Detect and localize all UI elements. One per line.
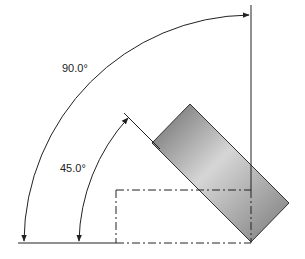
extension-line-45: [124, 113, 160, 149]
rotated-part: [152, 104, 289, 242]
angle-diagram: 90.0° 45.0°: [0, 0, 305, 259]
diagram-graphics: [0, 0, 305, 259]
dimension-arc-45: [79, 118, 128, 241]
angle-label-45: 45.0°: [60, 163, 86, 174]
angle-label-90: 90.0°: [62, 63, 88, 74]
dimension-arc-90: [24, 15, 249, 241]
